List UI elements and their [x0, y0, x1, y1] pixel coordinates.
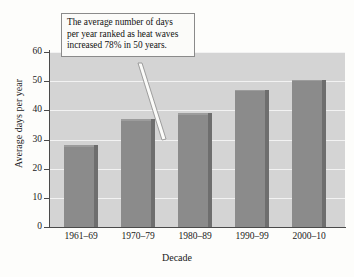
y-tick-40 — [44, 110, 49, 111]
bar-top-highlight — [64, 145, 98, 147]
y-tick-0 — [44, 227, 49, 228]
bar-side-shadow — [265, 90, 269, 227]
chart-figure: 60 50 40 30 20 10 0 1961–69 1970–79 1980… — [0, 0, 354, 277]
x-tick-label-1961-69: 1961–69 — [53, 231, 109, 241]
plot-area — [50, 52, 345, 227]
y-tick-10 — [44, 198, 49, 199]
y-tick-60 — [44, 52, 49, 53]
callout-annotation: The average number of days per year rank… — [61, 13, 195, 57]
bar-2000-10 — [292, 80, 326, 227]
callout-line-3: increased 78% in 50 years. — [67, 40, 189, 52]
bar-1990-99 — [235, 90, 269, 227]
y-axis-title: Average days per year — [13, 54, 24, 194]
bar-side-shadow — [151, 119, 155, 227]
bar-side-shadow — [208, 113, 212, 227]
x-tick-label-1980-89: 1980–89 — [167, 231, 223, 241]
callout-line-1: The average number of days — [67, 17, 189, 29]
bar-side-shadow — [322, 80, 326, 227]
y-tick-30 — [44, 140, 49, 141]
bar-1980-89 — [178, 113, 212, 227]
y-axis-line — [49, 50, 50, 228]
x-axis-title: Decade — [0, 252, 354, 263]
bar-top-highlight — [235, 90, 269, 92]
bar-top-highlight — [121, 119, 155, 121]
x-tick-label-1970-79: 1970–79 — [110, 231, 166, 241]
bar-side-shadow — [94, 145, 98, 227]
bar-top-highlight — [178, 113, 212, 115]
x-tick-label-1990-99: 1990–99 — [224, 231, 280, 241]
y-tick-50 — [44, 81, 49, 82]
bar-top-highlight — [292, 80, 326, 82]
x-axis-line — [49, 227, 346, 228]
callout-line-2: per year ranked as heat waves — [67, 29, 189, 41]
y-tick-20 — [44, 169, 49, 170]
y-tick-label-0: 0 — [18, 221, 42, 231]
bar-1961-69 — [64, 145, 98, 227]
x-tick-label-2000-10: 2000–10 — [281, 231, 337, 241]
bar-1970-79 — [121, 119, 155, 227]
